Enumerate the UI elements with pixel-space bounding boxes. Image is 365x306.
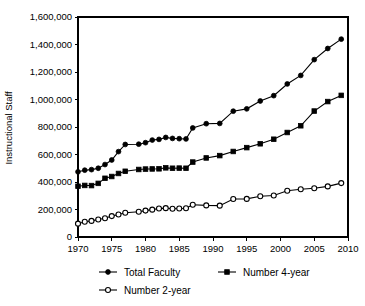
x-tick-label: 1970 [67, 243, 88, 254]
data-point-marker [163, 166, 168, 171]
data-point-marker [190, 126, 195, 131]
data-point-marker [143, 208, 148, 213]
data-point-marker [82, 219, 87, 224]
data-point-marker [163, 135, 168, 140]
legend-marker [225, 270, 230, 275]
data-point-marker [157, 206, 162, 211]
data-point-marker [312, 109, 317, 114]
data-point-marker [170, 166, 175, 171]
data-point-marker [285, 82, 290, 87]
instructional-staff-line-chart: Instructional Staff 0200,000400,000600,0… [0, 0, 365, 306]
data-point-marker [157, 137, 162, 142]
data-point-marker [258, 194, 263, 199]
data-point-marker [82, 168, 87, 173]
y-axis-tick-labels: 0200,000400,000600,000800,0001,000,0001,… [30, 11, 72, 242]
y-tick-label: 1,000,000 [30, 94, 72, 105]
data-point-marker [217, 153, 222, 158]
y-tick-label: 800,000 [38, 121, 72, 132]
data-point-marker [143, 167, 148, 172]
data-point-marker [298, 73, 303, 78]
legend-label: Total Faculty [124, 267, 180, 278]
series-markers [76, 37, 344, 174]
data-point-marker [136, 167, 141, 172]
data-point-marker [217, 203, 222, 208]
y-tick-label: 1,400,000 [30, 39, 72, 50]
data-point-marker [339, 181, 344, 186]
data-point-marker [244, 196, 249, 201]
x-tick-label: 1975 [101, 243, 122, 254]
x-tick-label: 1990 [202, 243, 223, 254]
data-point-marker [123, 169, 128, 174]
data-point-marker [157, 167, 162, 172]
y-tick-label: 600,000 [38, 149, 72, 160]
series-markers [76, 181, 344, 227]
data-point-marker [89, 167, 94, 172]
data-point-marker [339, 37, 344, 42]
data-point-marker [76, 221, 81, 226]
data-point-marker [103, 216, 108, 221]
data-point-marker [312, 57, 317, 62]
y-tick-label: 400,000 [38, 176, 72, 187]
data-point-marker [217, 121, 222, 126]
data-point-marker [136, 142, 141, 147]
chart-figure: Instructional Staff 0200,000400,000600,0… [0, 0, 365, 306]
data-point-marker [298, 123, 303, 128]
data-point-marker [325, 46, 330, 51]
legend-item[interactable]: Number 4-year [218, 267, 310, 278]
series-3 [76, 181, 344, 227]
data-point-marker [177, 136, 182, 141]
y-axis-title: Instructional Staff [3, 91, 14, 165]
series-markers [76, 93, 344, 188]
legend-marker [106, 270, 111, 275]
x-axis-tick-labels: 197019751980198519901995200020052010 [67, 243, 358, 254]
data-point-marker [150, 207, 155, 212]
data-point-marker [285, 130, 290, 135]
data-point-marker [204, 203, 209, 208]
data-point-marker [96, 166, 101, 171]
data-point-marker [136, 209, 141, 214]
legend-item[interactable]: Total Faculty [99, 267, 180, 278]
data-point-marker [190, 202, 195, 207]
data-point-marker [116, 212, 121, 217]
y-tick-label: 200,000 [38, 204, 72, 215]
data-point-marker [163, 206, 168, 211]
x-tick-label: 2005 [304, 243, 325, 254]
y-tick-label: 1,200,000 [30, 66, 72, 77]
legend-label: Number 2-year [124, 285, 191, 296]
data-point-marker [271, 93, 276, 98]
data-point-marker [170, 136, 175, 141]
legend-marker [106, 288, 111, 293]
data-point-marker [76, 169, 81, 174]
data-point-marker [143, 140, 148, 145]
data-point-marker [184, 137, 189, 142]
data-point-marker [285, 188, 290, 193]
data-point-marker [123, 142, 128, 147]
data-point-marker [204, 121, 209, 126]
data-point-marker [339, 93, 344, 98]
data-point-marker [177, 166, 182, 171]
data-point-marker [82, 183, 87, 188]
x-tick-label: 1980 [135, 243, 156, 254]
data-point-marker [109, 158, 114, 163]
data-point-marker [109, 214, 114, 219]
data-point-marker [298, 187, 303, 192]
data-point-marker [184, 206, 189, 211]
data-point-marker [150, 167, 155, 172]
data-point-marker [325, 184, 330, 189]
data-point-marker [103, 176, 108, 181]
data-point-marker [150, 138, 155, 143]
data-point-marker [244, 145, 249, 150]
data-point-marker [204, 156, 209, 161]
data-point-marker [312, 186, 317, 191]
data-point-marker [271, 193, 276, 198]
x-tick-label: 1985 [169, 243, 190, 254]
data-point-marker [325, 99, 330, 104]
legend-item[interactable]: Number 2-year [99, 285, 191, 296]
data-point-marker [244, 106, 249, 111]
y-axis-title-group: Instructional Staff [3, 91, 14, 165]
x-tick-label: 1995 [236, 243, 257, 254]
data-point-marker [116, 171, 121, 176]
data-point-marker [231, 149, 236, 154]
x-tick-label: 2000 [270, 243, 291, 254]
series-1 [76, 37, 344, 174]
